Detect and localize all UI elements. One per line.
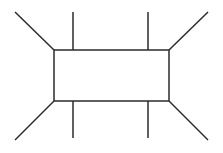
center-rectangle [54,50,169,101]
diagram-svg [0,0,223,153]
diagram-canvas [0,0,223,153]
